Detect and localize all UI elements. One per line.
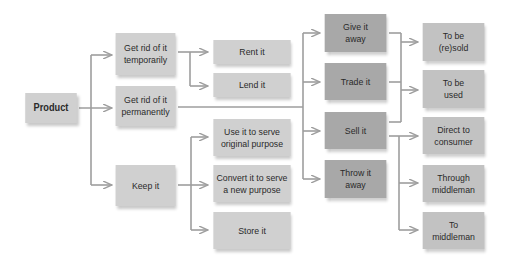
use-original-purpose-node: Use it to serve original purpose: [213, 119, 290, 156]
sell-it-node: Sell it: [325, 112, 387, 149]
to-middleman-node: To middleman: [423, 212, 485, 249]
to-be-resold-node: To be (re)sold: [423, 23, 485, 61]
get-rid-permanently-node: Get rid of it permanently: [116, 86, 176, 126]
get-rid-temporarily-node: Get rid of it temporarily: [116, 33, 176, 75]
to-be-used-node: To be used: [423, 70, 485, 108]
trade-it-node: Trade it: [325, 63, 387, 100]
give-it-away-node: Give it away: [325, 14, 387, 52]
rent-it-node: Rent it: [213, 40, 290, 64]
keep-it-node: Keep it: [116, 165, 176, 206]
through-middleman-node: Through middleman: [423, 165, 485, 202]
store-it-node: Store it: [213, 212, 290, 249]
convert-new-purpose-node: Convert it to serve a new purpose: [213, 165, 290, 202]
direct-to-consumer-node: Direct to consumer: [423, 117, 485, 154]
product-node: Product: [25, 93, 77, 123]
lend-it-node: Lend it: [213, 73, 290, 97]
throw-it-away-node: Throw it away: [325, 160, 387, 198]
